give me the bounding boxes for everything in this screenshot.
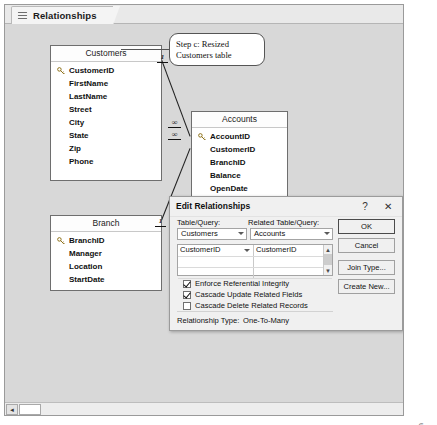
checkbox-cascade-update-related-fields[interactable]: Cascade Update Related Fields	[183, 290, 302, 299]
grid-cell-right[interactable]	[254, 268, 324, 278]
checkbox-label: Cascade Delete Related Records	[195, 301, 308, 310]
close-icon[interactable]: ✕	[377, 198, 399, 215]
related-table-query-value: Accounts	[254, 229, 285, 238]
field-row[interactable]: LastName	[51, 90, 161, 103]
primary-key-icon	[198, 133, 206, 141]
field-name: Balance	[210, 171, 241, 180]
label-table-query: Table/Query:	[177, 218, 220, 227]
grid-row[interactable]	[178, 268, 332, 279]
field-name: BranchID	[69, 236, 105, 245]
field-list-branch: BranchID Manager Location StartDate	[51, 232, 161, 286]
table-title-accounts: Accounts	[192, 112, 287, 128]
grid-row[interactable]	[178, 257, 332, 268]
field-row[interactable]: City	[51, 116, 161, 129]
grid-cell-left[interactable]: CustomerID	[178, 245, 254, 256]
value-relationship-type: One-To-Many	[243, 316, 289, 325]
field-name: Phone	[69, 157, 93, 166]
grid-cell-right[interactable]: CustomerID	[254, 245, 324, 256]
field-row[interactable]: Zip	[51, 142, 161, 155]
create-new-button[interactable]: Create New...	[338, 279, 395, 294]
field-row[interactable]: BranchID	[51, 234, 161, 247]
field-row[interactable]: CustomerID	[192, 143, 287, 156]
field-row[interactable]: CustomerID	[51, 64, 161, 77]
checkbox-box[interactable]	[183, 291, 191, 299]
field-row[interactable]: Street	[51, 103, 161, 116]
checkbox-label: Enforce Referential Integrity	[195, 279, 289, 288]
field-row[interactable]: State	[51, 129, 161, 142]
field-row[interactable]: FirstName	[51, 77, 161, 90]
field-name: OpenDate	[210, 184, 248, 193]
field-name: Street	[69, 105, 92, 114]
ok-button[interactable]: OK	[338, 219, 395, 234]
field-name: StartDate	[69, 275, 105, 284]
join-field-grid[interactable]: CustomerID CustomerID ▲	[177, 244, 333, 276]
related-table-query-select[interactable]: Accounts	[250, 228, 333, 240]
field-row[interactable]: BranchID	[192, 156, 287, 169]
field-name: Zip	[69, 144, 81, 153]
field-name: State	[69, 131, 89, 140]
field-list-customers: CustomerID FirstName LastName Street Cit…	[51, 62, 161, 168]
table-title-branch: Branch	[51, 216, 161, 232]
callout-leader-line	[121, 49, 171, 50]
checkbox-box[interactable]	[183, 280, 191, 288]
checkbox-enforce-referential-integrity[interactable]: Enforce Referential Integrity	[183, 279, 289, 288]
scroll-up-icon[interactable]: ▲	[324, 245, 332, 254]
field-row[interactable]: Phone	[51, 155, 161, 168]
scroll-left-icon[interactable]: ◄	[6, 404, 18, 415]
chevron-down-icon	[238, 232, 244, 235]
divider	[177, 311, 333, 312]
primary-key-icon	[57, 67, 65, 75]
help-icon[interactable]: ?	[354, 198, 376, 215]
grid-cell-right[interactable]	[254, 257, 324, 267]
table-box-branch[interactable]: Branch BranchID Manager Location StartDa…	[50, 215, 162, 291]
table-box-customers[interactable]: Customers CustomerID FirstName LastName …	[50, 45, 162, 181]
join-type-button[interactable]: Join Type...	[338, 260, 395, 275]
checkbox-box[interactable]	[183, 302, 191, 310]
callout-line-1: Step c: Resized	[176, 39, 258, 50]
dialog-body: Table/Query: Related Table/Query: Custom…	[170, 216, 402, 330]
table-query-select[interactable]: Customers	[177, 228, 247, 240]
scrollbar-thumb[interactable]	[19, 404, 41, 415]
field-name: Location	[69, 262, 102, 271]
field-list-accounts: AccountID CustomerID BranchID Balance Op…	[192, 128, 287, 195]
field-row[interactable]: Location	[51, 260, 161, 273]
relationships-icon	[18, 11, 29, 21]
field-row[interactable]: Manager	[51, 247, 161, 260]
tab-label: Relationships	[33, 10, 97, 21]
checkbox-label: Cascade Update Related Fields	[195, 290, 302, 299]
callout-line-2: Customers table	[176, 50, 258, 61]
field-name: CustomerID	[69, 66, 114, 75]
grid-cell-left-value: CustomerID	[180, 245, 221, 254]
grid-cell-left[interactable]	[178, 257, 254, 267]
grid-scrollbar[interactable]: ▲ ▼	[323, 245, 332, 275]
label-relationship-type: Relationship Type:	[177, 316, 239, 325]
relationships-canvas[interactable]: 1 ∞ ∞ 1 Customers CustomerID FirstName L…	[5, 24, 403, 415]
cancel-button[interactable]: Cancel	[338, 238, 395, 253]
dialog-titlebar[interactable]: Edit Relationships ? ✕	[170, 197, 402, 217]
scroll-down-icon[interactable]: ▼	[324, 266, 332, 275]
field-row[interactable]: Balance	[192, 169, 287, 182]
cardinality-one-customers: 1	[157, 54, 168, 63]
cardinality-many-accounts-1: ∞	[168, 120, 181, 128]
field-name: BranchID	[210, 158, 246, 167]
callout-step-c: Step c: Resized Customers table	[169, 33, 265, 66]
field-name: FirstName	[69, 79, 108, 88]
tab-relationships[interactable]: Relationships	[11, 6, 114, 24]
cardinality-one-branch: 1	[155, 218, 166, 227]
scrollbar-thumb[interactable]	[324, 254, 332, 265]
cardinality-many-accounts-2: ∞	[168, 132, 181, 140]
table-box-accounts[interactable]: Accounts AccountID CustomerID BranchID B…	[191, 111, 288, 201]
document-tab-strip: Relationships	[5, 5, 403, 24]
checkbox-cascade-delete-related-records[interactable]: Cascade Delete Related Records	[183, 301, 308, 310]
label-related-table-query: Related Table/Query:	[248, 218, 319, 227]
table-query-value: Customers	[181, 229, 218, 238]
dialog-title: Edit Relationships	[176, 201, 250, 211]
chevron-down-icon	[244, 249, 250, 252]
field-row[interactable]: AccountID	[192, 130, 287, 143]
horizontal-scrollbar[interactable]: ◄	[5, 402, 403, 415]
grid-row[interactable]: CustomerID CustomerID	[178, 245, 332, 257]
grid-cell-left[interactable]	[178, 268, 254, 278]
field-name: City	[69, 118, 84, 127]
field-row[interactable]: StartDate	[51, 273, 161, 286]
field-row[interactable]: OpenDate	[192, 182, 287, 195]
